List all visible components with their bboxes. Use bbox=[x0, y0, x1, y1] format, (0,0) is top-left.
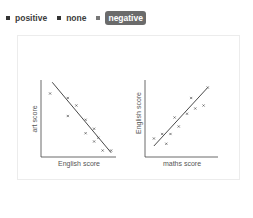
x-axis-label: English score bbox=[58, 160, 100, 168]
data-point bbox=[67, 115, 69, 117]
x-axis-label: maths score bbox=[163, 160, 201, 167]
data-point bbox=[102, 149, 104, 151]
data-point bbox=[75, 104, 77, 106]
chart-left: English score art score bbox=[31, 80, 116, 168]
data-point bbox=[93, 128, 95, 130]
chart-right: maths score English score bbox=[135, 80, 218, 167]
data-point bbox=[85, 132, 87, 134]
data-point bbox=[93, 140, 95, 142]
trendline bbox=[154, 88, 208, 147]
data-point bbox=[207, 86, 209, 88]
data-point bbox=[153, 137, 155, 139]
data-point bbox=[110, 149, 112, 151]
data-point bbox=[190, 97, 192, 99]
scatter-charts: English score art score maths score Engl… bbox=[0, 0, 253, 218]
data-point bbox=[67, 97, 69, 99]
data-point bbox=[194, 107, 196, 109]
y-axis-label: art score bbox=[31, 105, 38, 132]
data-point bbox=[165, 143, 167, 145]
trendline bbox=[52, 82, 111, 153]
data-point bbox=[178, 125, 180, 127]
data-point bbox=[49, 92, 51, 94]
data-point bbox=[85, 119, 87, 121]
data-point bbox=[186, 113, 188, 115]
data-point bbox=[202, 104, 204, 106]
y-axis-label: English score bbox=[135, 92, 143, 134]
data-point bbox=[161, 133, 163, 135]
data-point bbox=[174, 116, 176, 118]
data-point bbox=[169, 133, 171, 135]
